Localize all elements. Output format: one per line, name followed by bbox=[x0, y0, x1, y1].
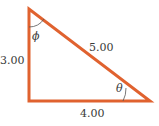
theta-angle-arc bbox=[123, 88, 126, 101]
hypotenuse-label: 5.00 bbox=[89, 41, 114, 54]
horizontal-leg-label: 4.00 bbox=[80, 107, 105, 120]
vertical-leg-label: 3.00 bbox=[0, 54, 25, 67]
phi-label: ϕ bbox=[32, 30, 40, 43]
right-triangle-diagram: ϕ θ 3.00 5.00 4.00 bbox=[0, 0, 159, 126]
triangle-shape bbox=[29, 9, 150, 101]
theta-label: θ bbox=[116, 82, 123, 95]
